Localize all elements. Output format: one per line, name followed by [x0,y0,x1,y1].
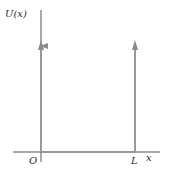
left-wall-arrowhead-icon [38,40,44,50]
y-axis-label: U(x) [5,8,27,19]
well-width-label: L [130,155,138,166]
right-wall-arrowhead-icon [132,40,138,50]
x-axis-label: x [146,152,152,163]
potential-well-diagram: U(x) O L x [0,0,170,178]
origin-label: O [29,155,37,166]
